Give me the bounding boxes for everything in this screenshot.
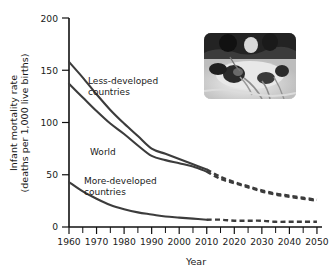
series-label-world-line1: World <box>90 147 116 157</box>
neonatal-infant-photo-image <box>204 33 296 99</box>
y-axis-title-line2: (deaths per 1,000 live births) <box>19 54 30 193</box>
y-tick-label-100: 100 <box>40 117 58 128</box>
neonatal-infant-photo <box>204 33 296 99</box>
x-tick-label-1990: 1990 <box>140 236 164 247</box>
series-label-more-developed: More-developed countries <box>84 176 157 197</box>
y-tick-label-150: 150 <box>40 65 58 76</box>
x-axis-title: Year <box>185 256 206 267</box>
x-tick-label-2000: 2000 <box>168 236 192 247</box>
y-tick-label-200: 200 <box>40 13 58 24</box>
series-line-1-projected <box>207 172 317 201</box>
x-tick-label-1970: 1970 <box>85 236 109 247</box>
y-tick-label-50: 50 <box>46 169 58 180</box>
x-tick-label-2030: 2030 <box>250 236 274 247</box>
series-line-2-projected <box>207 220 317 222</box>
series-label-less-developed-line2: countries <box>88 87 130 97</box>
series-line-0-projected <box>207 170 317 200</box>
y-tick-label-0: 0 <box>52 221 58 232</box>
series-label-less-developed-line1: Less-developed <box>88 76 158 86</box>
series-label-world: World <box>90 147 116 157</box>
x-tick-label-2010: 2010 <box>195 236 219 247</box>
x-tick-label-2020: 2020 <box>223 236 247 247</box>
x-tick-label-2050: 2050 <box>305 236 329 247</box>
x-tick-label-1980: 1980 <box>112 236 136 247</box>
infant-mortality-chart: 200 150 100 50 0 Infant mortality rate (… <box>0 0 330 276</box>
x-tick-label-2040: 2040 <box>278 236 302 247</box>
series-label-less-developed: Less-developed countries <box>88 76 158 97</box>
y-axis-tick-labels: 200 150 100 50 0 <box>40 13 58 233</box>
y-axis-title-line1: Infant mortality rate <box>8 75 19 171</box>
y-axis-title: Infant mortality rate (deaths per 1,000 … <box>8 54 30 193</box>
y-axis-ticks <box>62 18 69 227</box>
x-tick-label-1960: 1960 <box>57 236 81 247</box>
series-label-more-developed-line1: More-developed <box>84 176 157 186</box>
x-axis-minor-ticks <box>83 227 303 233</box>
series-label-more-developed-line2: countries <box>84 187 126 197</box>
x-axis-tick-labels: 1960 1970 1980 1990 2000 2010 2020 2030 … <box>57 236 328 247</box>
